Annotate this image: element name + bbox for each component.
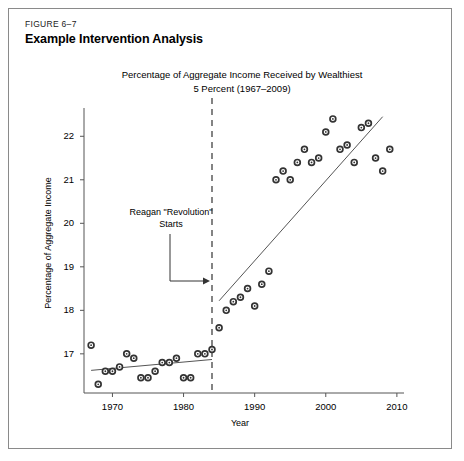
plot-canvas — [0, 0, 464, 461]
chart-plot: Percentage of Aggregate Income Received … — [0, 0, 464, 461]
trend-lines — [91, 117, 383, 371]
annotation-arrow — [170, 234, 210, 284]
